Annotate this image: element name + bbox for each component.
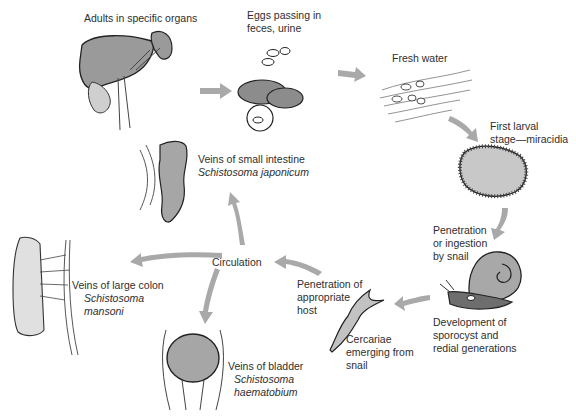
- label-cercariae: Cercariaeemerging fromsnail: [346, 333, 414, 372]
- miracidium-icon: [460, 146, 526, 196]
- eggs-icon: [238, 48, 303, 132]
- arrow-circulation-to-bladder-icon: [199, 268, 220, 324]
- arrow-host-to-circulation-icon: [274, 255, 322, 276]
- arrow-eggs-to-water-icon: [338, 67, 366, 82]
- label-snail-penetration: Penetrationor ingestionby snail: [433, 224, 487, 263]
- label-miracidia: First larvalstage—miracidia: [490, 120, 568, 146]
- large-colon-icon: [13, 237, 78, 355]
- label-large-colon: Veins of large colonSchistosomamansoni: [72, 279, 164, 318]
- label-fresh-water: Fresh water: [392, 52, 447, 65]
- label-host-penetration: Penetration ofappropriatehost: [297, 278, 362, 317]
- label-circulation: Circulation: [212, 256, 262, 269]
- label-adults: Adults in specific organs: [84, 12, 197, 25]
- arrow-miracidia-to-snail-icon: [491, 208, 508, 240]
- arrow-adults-to-eggs-icon: [200, 83, 232, 99]
- arrow-circulation-to-colon-icon: [130, 252, 222, 267]
- bladder-icon: [163, 330, 224, 410]
- small-intestine-icon: [140, 141, 187, 222]
- arrow-water-to-miracidia-icon: [448, 116, 478, 142]
- life-cycle-artwork: [0, 0, 576, 418]
- label-small-intestine: Veins of small intestineSchistosoma japo…: [198, 153, 309, 179]
- arrow-snail-to-cercariae-icon: [394, 295, 430, 311]
- arrow-circulation-to-intestine-icon: [228, 192, 245, 245]
- liver-organs-icon: [80, 31, 172, 130]
- label-eggs: Eggs passing infeces, urine: [247, 9, 321, 35]
- label-bladder: Veins of bladderSchistosomahaematobium: [228, 360, 303, 399]
- fresh-water-icon: [380, 70, 472, 122]
- label-sporocyst: Development ofsporocyst andredial genera…: [433, 316, 516, 355]
